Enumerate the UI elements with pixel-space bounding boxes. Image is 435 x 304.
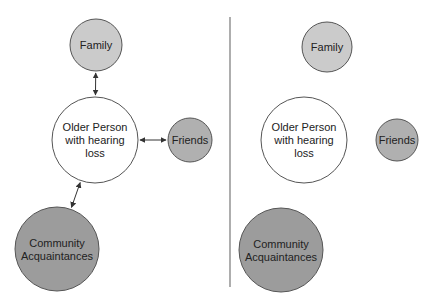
node-label: Community [29,237,85,249]
node-label: Friends [172,134,209,146]
node-family-isolated: Family [302,22,352,72]
node-label: Older Person [63,121,128,133]
node-label: Acquaintances [245,251,318,263]
node-community-connected: CommunityAcquaintances [15,207,99,291]
node-family-connected: Family [70,19,122,71]
edge-center-community-arrow [71,182,80,207]
node-label: Acquaintances [21,250,94,262]
node-label: Family [80,39,113,51]
social-network-diagram: FamilyOlder Personwith hearinglossFriend… [0,0,435,304]
node-center-connected: Older Personwith hearingloss [52,97,138,183]
node-label: loss [294,147,314,159]
node-friends-connected: Friends [168,118,212,162]
node-label: Older Person [272,121,337,133]
node-label: with hearing [273,134,333,146]
node-center-isolated: Older Personwith hearingloss [261,97,347,183]
node-label: Community [253,238,309,250]
nodes-layer: FamilyOlder Personwith hearinglossFriend… [15,19,418,292]
node-label: Friends [379,134,416,146]
node-label: with hearing [64,134,124,146]
node-label: Family [311,41,344,53]
node-community-isolated: CommunityAcquaintances [239,208,323,292]
node-friends-isolated: Friends [376,119,418,161]
node-label: loss [85,147,105,159]
